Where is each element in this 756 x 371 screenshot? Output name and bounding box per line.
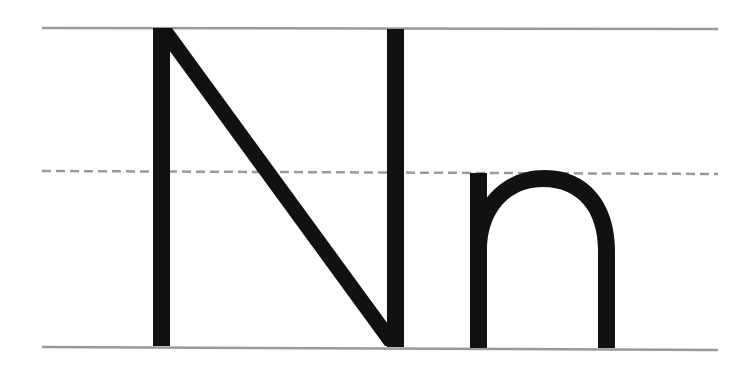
lowercase-letter-n (470, 170, 615, 348)
letter-canvas (0, 0, 756, 371)
handwriting-practice-sheet: N n (0, 0, 756, 371)
uppercase-letter-n (153, 28, 404, 347)
baseline-guide-line (42, 347, 718, 350)
midline-dashed-guide (42, 171, 718, 174)
top-guide-line (42, 28, 718, 29)
